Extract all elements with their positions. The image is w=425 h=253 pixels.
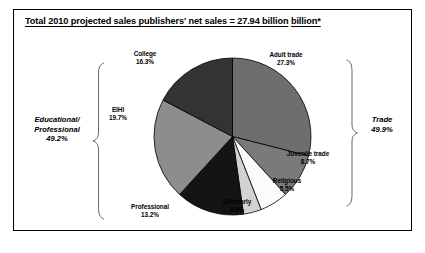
group-label-trade-pct: 49.9%	[359, 125, 405, 135]
slice-label-adult-trade-name: Adult trade	[269, 51, 302, 58]
slice-label-adult-trade-pct: 27.3%	[255, 59, 317, 67]
slice-label-college: College 16.3%	[115, 50, 175, 66]
slice-label-professional-name: Professional	[131, 203, 169, 210]
group-label-trade-name: Trade	[372, 115, 393, 124]
slice-label-scholarly-pct: 3.5%	[210, 206, 264, 214]
group-label-educational-professional: Educational/ Professional 49.2%	[20, 115, 94, 144]
figure-frame: Total 2010 projected sales publishers' n…	[13, 9, 412, 231]
slice-label-religious-name: Religious	[273, 177, 301, 184]
brace-trade	[347, 60, 358, 206]
slice-label-scholarly: Scholarly 3.5%	[210, 198, 264, 214]
slice-label-eihi-name: EIHI	[112, 106, 124, 113]
slice-label-juvenile-trade-name: Juvenile trade	[287, 150, 329, 157]
slice-label-adult-trade: Adult trade 27.3%	[255, 51, 317, 67]
slice-label-religious-pct: 5.5%	[260, 185, 314, 193]
slice-label-religious: Religious 5.5%	[260, 177, 314, 193]
slice-label-college-name: College	[134, 50, 157, 57]
slice-label-juvenile-trade-pct: 8.7%	[273, 158, 343, 166]
group-label-educational-pct: 49.2%	[20, 134, 94, 144]
slice-label-college-pct: 16.3%	[115, 58, 175, 66]
brace-educational-professional	[93, 63, 104, 219]
slice-label-eihi: EIHI 19.7%	[96, 106, 140, 122]
pie-slice-college	[163, 58, 233, 137]
group-label-educational-line-2: Professional	[20, 125, 94, 135]
slice-label-eihi-pct: 19.7%	[96, 114, 140, 122]
group-label-trade: Trade 49.9%	[359, 115, 405, 134]
slice-label-professional: Professional 13.2%	[119, 203, 181, 219]
pie-slice-eihi	[154, 100, 233, 194]
group-label-educational-line-1: Educational/	[34, 115, 79, 124]
slice-label-juvenile-trade: Juvenile trade 8.7%	[273, 150, 343, 166]
slice-label-professional-pct: 13.2%	[119, 211, 181, 219]
slice-label-scholarly-name: Scholarly	[223, 198, 251, 205]
pie-slice-adult-trade	[233, 58, 312, 156]
pie-chart: College 16.3% Adult trade 27.3% Juvenile…	[14, 10, 412, 231]
group-brace-layer	[93, 60, 358, 219]
